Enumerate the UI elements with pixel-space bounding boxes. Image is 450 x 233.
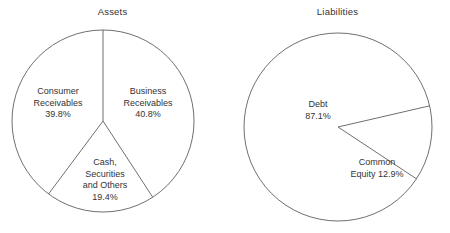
liabilities-slice-label-1: Debt87.1% — [305, 99, 331, 122]
assets-slice-label-0: BusinessReceivables40.8% — [123, 86, 172, 121]
liabilities-pie-svg — [225, 0, 450, 233]
liabilities-chart-panel: Liabilities CommonEquity 12.9%Debt87.1% — [225, 0, 450, 233]
pie-chart-figure: Assets BusinessReceivables40.8%Cash,Secu… — [0, 0, 450, 233]
assets-slice-label-1: Cash,Securitiesand Others19.4% — [83, 157, 128, 203]
assets-chart-panel: Assets BusinessReceivables40.8%Cash,Secu… — [0, 0, 225, 233]
assets-slice-label-2: ConsumerReceivables39.8% — [33, 86, 82, 121]
liabilities-slice-divider-0 — [338, 106, 430, 127]
liabilities-slice-label-0: CommonEquity 12.9% — [350, 157, 403, 180]
